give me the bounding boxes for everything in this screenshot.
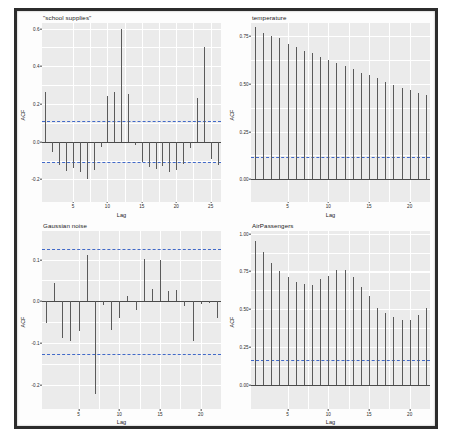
acf-stem <box>336 63 337 180</box>
acf-stem <box>218 142 219 166</box>
plot-area <box>251 23 430 202</box>
x-axis-tick-mark <box>287 409 288 411</box>
y-axis-tick-mark <box>40 28 42 29</box>
gridline-vertical-minor <box>125 23 126 202</box>
acf-stem <box>345 270 346 385</box>
plot-wrapper: -0.20.00.20.40.6510152025 <box>42 23 221 202</box>
gridline-horizontal-minor <box>42 322 221 323</box>
acf-stem <box>320 279 321 385</box>
x-axis-tick-mark <box>287 202 288 204</box>
acf-stem <box>193 301 194 341</box>
acf-stem <box>402 88 403 179</box>
figure-canvas: "school supplies" ACF -0.20.00.20.40.651… <box>0 0 455 440</box>
acf-stem <box>184 301 185 306</box>
y-axis-label: ACF <box>229 109 235 120</box>
gridline-horizontal <box>251 132 430 133</box>
confidence-bound-upper <box>42 121 221 122</box>
acf-stem <box>418 315 419 385</box>
acf-stem <box>377 308 378 385</box>
y-axis-tick-mark <box>40 384 42 385</box>
gridline-vertical-minor <box>99 231 100 410</box>
y-axis-tick-mark <box>249 271 251 272</box>
gridline-vertical <box>201 231 202 410</box>
gridline-horizontal-minor <box>251 253 430 254</box>
acf-stem <box>328 276 329 385</box>
y-axis-tick-mark <box>249 385 251 386</box>
gridline-horizontal <box>251 36 430 37</box>
panel-title: temperature <box>252 14 286 21</box>
acf-stem <box>217 301 218 318</box>
gridline-horizontal <box>251 271 430 272</box>
panel-title: AirPassengers <box>252 222 294 229</box>
acf-stem <box>263 33 264 180</box>
gridline-vertical-minor <box>349 23 350 202</box>
acf-stem <box>209 301 210 302</box>
acf-stem <box>385 313 386 386</box>
x-axis-tick-mark <box>78 409 79 411</box>
gridline-vertical-minor <box>389 23 390 202</box>
acf-stem <box>190 142 191 149</box>
acf-stem <box>271 263 272 385</box>
acf-stem <box>54 283 55 302</box>
x-axis-label: Lag <box>17 419 226 425</box>
gridline-vertical-minor <box>90 23 91 202</box>
acf-stem <box>336 270 337 386</box>
gridline-horizontal-minor <box>251 328 430 329</box>
acf-stem <box>176 290 177 301</box>
acf-stem <box>255 241 256 385</box>
acf-stem <box>393 317 394 385</box>
y-axis-tick-mark <box>249 84 251 85</box>
x-axis-tick-mark <box>409 202 410 204</box>
acf-stem <box>296 47 297 179</box>
x-axis-tick-mark <box>210 202 211 204</box>
gridline-vertical <box>73 23 74 202</box>
gridline-horizontal <box>251 234 430 235</box>
acf-stem <box>426 95 427 179</box>
acf-stem <box>127 296 128 301</box>
acf-stem <box>162 142 163 166</box>
acf-stem <box>87 255 88 301</box>
gridline-horizontal <box>42 29 221 30</box>
gridline-vertical-minor <box>180 231 181 410</box>
y-axis-tick-mark <box>40 104 42 105</box>
x-axis-label: Lag <box>226 212 435 218</box>
gridline-vertical <box>211 23 212 202</box>
acf-stem <box>353 69 354 179</box>
acf-stem <box>279 38 280 179</box>
y-axis-tick-mark <box>40 179 42 180</box>
confidence-bound-lower <box>42 162 221 163</box>
acf-stem <box>169 142 170 172</box>
panel-school-supplies: "school supplies" ACF -0.20.00.20.40.651… <box>17 11 226 219</box>
acf-stem <box>128 94 129 141</box>
acf-stem <box>320 57 321 179</box>
gridline-horizontal-minor <box>42 85 221 86</box>
gridline-horizontal <box>42 260 221 261</box>
x-axis-tick-mark <box>73 202 74 204</box>
acf-stem <box>119 301 120 318</box>
acf-stem <box>328 60 329 179</box>
panel-title: Gaussian noise <box>43 222 87 229</box>
x-axis-tick-mark <box>119 409 120 411</box>
acf-stem <box>288 44 289 180</box>
acf-stem <box>149 142 150 167</box>
acf-stem <box>111 301 112 329</box>
gridline-vertical-minor <box>140 231 141 410</box>
plot-wrapper: -0.2-0.10.00.15101520 <box>42 231 221 410</box>
acf-stem <box>385 82 386 180</box>
gridline-vertical <box>119 231 120 410</box>
plot-area <box>251 231 430 410</box>
acf-stem <box>87 142 88 179</box>
acf-stem <box>70 301 71 341</box>
acf-stem <box>361 287 362 385</box>
confidence-bound-upper <box>251 360 430 361</box>
gridline-horizontal-minor <box>251 60 430 61</box>
y-axis-tick-mark <box>249 36 251 37</box>
gridline-horizontal <box>42 104 221 105</box>
acf-stem <box>152 289 153 301</box>
gridline-vertical <box>176 23 177 202</box>
y-axis-tick-mark <box>249 309 251 310</box>
panel-temperature: temperature ACF 0.000.250.500.755101520 … <box>226 11 435 219</box>
acf-stem <box>204 47 205 141</box>
acf-stem <box>288 277 289 385</box>
y-axis-tick-mark <box>40 66 42 67</box>
